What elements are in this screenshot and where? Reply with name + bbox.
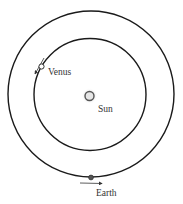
earth-icon [89, 175, 94, 180]
sun-icon [85, 92, 94, 101]
orbit-diagram: Sun Venus Earth [0, 0, 183, 204]
venus-icon [39, 64, 44, 69]
venus-label: Venus [48, 67, 72, 77]
sun [82, 88, 98, 104]
earth-label: Earth [96, 188, 117, 198]
earth-motion-arrow [80, 183, 102, 184]
sun-label: Sun [98, 104, 113, 114]
